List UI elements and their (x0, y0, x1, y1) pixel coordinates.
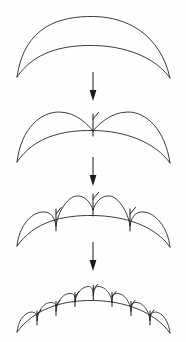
stage-4-arch-5 (93, 286, 112, 302)
stage-2-two-arches (17, 112, 170, 163)
stage-3-four-arches (17, 193, 170, 248)
stage-3-arch-3 (93, 196, 130, 226)
transition-arrow-3 (90, 242, 97, 271)
stage-1-upper-arc (17, 16, 170, 78)
stage-2-arch-1 (17, 112, 93, 162)
transition-arrow-2 (90, 157, 97, 186)
figure-root (0, 0, 186, 342)
stage-3-arch-2 (56, 196, 93, 226)
stage-1-lens (17, 16, 170, 78)
fractal-subdivision-figure (0, 0, 186, 342)
stage-4-arch-7 (131, 302, 150, 320)
tick-branch (93, 193, 99, 200)
arrow-head-icon (90, 90, 97, 101)
tick-branch (56, 208, 61, 215)
tick-branch (130, 208, 136, 215)
stage-2-arch-2 (93, 112, 170, 163)
stage-4-arch-4 (75, 286, 93, 302)
arrow-head-icon (90, 260, 97, 271)
stage-3-arch-1 (17, 212, 56, 246)
transition-arrow-1 (90, 72, 97, 101)
tick-branch (93, 113, 99, 120)
stage-3-cusp-tick-3 (130, 208, 136, 232)
arrow-head-icon (90, 175, 97, 186)
stage-4-eight-arches (17, 285, 170, 334)
tick-branch (37, 310, 41, 315)
stage-4-baseline-arc (17, 300, 170, 333)
stage-2-cusp-tick (93, 113, 99, 137)
